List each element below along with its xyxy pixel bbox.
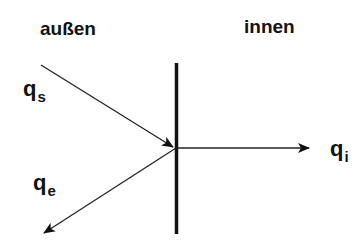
q-subscript: e [47, 182, 55, 199]
q-subscript: s [37, 88, 45, 105]
q-symbol: q [33, 170, 46, 195]
q-symbol: q [330, 136, 343, 161]
label-q-internal: qi [330, 138, 349, 164]
incoming-arrow [41, 65, 173, 147]
label-outside: außen [40, 18, 96, 40]
emitted-arrow [44, 148, 176, 233]
label-inside: innen [244, 16, 295, 38]
q-subscript: i [344, 148, 348, 165]
q-symbol: q [23, 76, 36, 101]
label-q-emitted: qe [33, 172, 56, 198]
label-q-incoming: qs [23, 78, 46, 104]
